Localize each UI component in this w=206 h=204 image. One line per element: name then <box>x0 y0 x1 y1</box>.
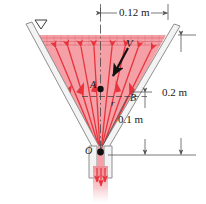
point-label-o: O <box>85 145 92 156</box>
dimension-label-total-depth: 0.2 m <box>162 86 187 98</box>
velocity-vector-label: V <box>126 37 133 49</box>
discharge-jet <box>93 166 108 202</box>
water-level-triangle-icon <box>35 20 47 29</box>
point-label-b: B <box>130 92 136 103</box>
dimension-label-b-depth: 0.1 m <box>118 113 143 125</box>
dimension-label-top-width: 0.12 m <box>119 6 150 18</box>
point-label-a: A <box>90 79 96 90</box>
point-o-marker <box>97 149 104 156</box>
figure-canvas: 0.12 m 0.2 m 0.1 m A B O V r <box>0 0 206 204</box>
funnel-diagram-svg <box>0 0 206 204</box>
radius-label: r <box>111 98 115 108</box>
point-a-marker <box>97 86 103 92</box>
